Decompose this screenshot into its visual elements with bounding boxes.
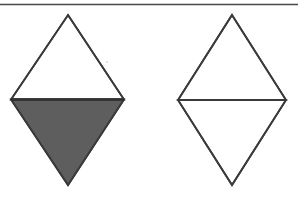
figure-canvas: [0, 0, 298, 199]
geometry-diagram: [0, 0, 298, 199]
scan-speck: [104, 65, 105, 66]
scan-speck: [106, 61, 107, 62]
